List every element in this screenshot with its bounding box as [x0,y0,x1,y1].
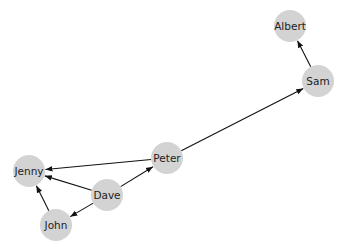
node-label: Peter [153,152,181,164]
graph-canvas: AlbertSamPeterDaveJennyJohn [0,0,345,248]
edge-dave-to-jenny [45,176,92,190]
edge-peter-to-jenny [45,160,151,170]
node-sam: Sam [302,65,334,97]
node-label: John [44,219,68,231]
edge-dave-to-john [70,203,93,217]
nodes-layer: AlbertSamPeterDaveJennyJohn [13,10,334,241]
node-peter: Peter [151,142,183,174]
edge-dave-to-peter [121,167,153,187]
edge-peter-to-sam [181,88,303,150]
node-jenny: Jenny [13,155,45,187]
node-dave: Dave [91,179,123,211]
edge-sam-to-albert [297,41,310,67]
node-label: Dave [93,189,120,201]
node-label: Sam [306,75,329,87]
node-label: Jenny [13,165,43,177]
node-albert: Albert [274,10,306,42]
node-john: John [40,209,72,241]
node-label: Albert [274,20,306,32]
edge-john-to-jenny [36,186,48,211]
edges-layer [36,41,310,217]
